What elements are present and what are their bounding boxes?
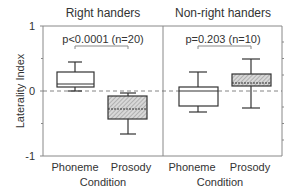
x-label-left-phoneme: Phoneme	[51, 161, 98, 173]
x-label-left-prosody: Prosody	[111, 161, 152, 173]
box-right-handers-phoneme	[57, 62, 94, 91]
x-axis-label-left: Condition	[80, 176, 126, 188]
left-p-value: p<0.0001 (n=20)	[62, 33, 143, 45]
box-right-handers-prosody	[108, 93, 147, 134]
x-label-right-phoneme: Phoneme	[168, 161, 215, 173]
panel-left-title: Right handers	[66, 6, 141, 20]
y-tick-neg1: -1	[25, 150, 35, 162]
x-axis-label-right: Condition	[197, 176, 243, 188]
panel-right-title: Non-right handers	[175, 6, 271, 20]
x-label-right-prosody: Prosody	[230, 161, 271, 173]
box-non-right-handers-prosody	[232, 59, 271, 108]
right-p-value: p=0.203 (n=10)	[185, 33, 260, 45]
laterality-boxplot-chart: Right handers Non-right handers 1 0 -1 L…	[0, 0, 298, 196]
box-non-right-handers-phoneme	[179, 72, 218, 112]
y-tick-0: 0	[29, 85, 35, 97]
y-tick-1: 1	[29, 20, 35, 32]
y-axis-label: Laterality Index	[14, 53, 26, 128]
